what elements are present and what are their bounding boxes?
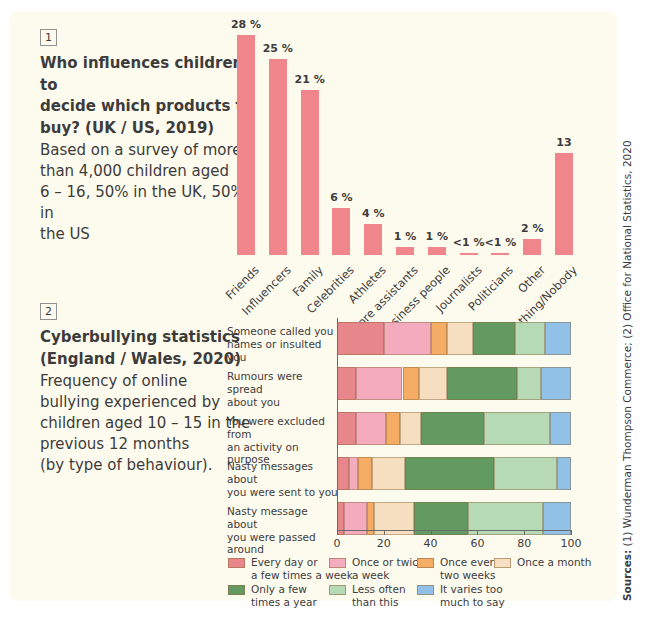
chart2-segment-once-every-two-weeks: [431, 322, 447, 355]
source-note: Sources: (1) Wunderman Thompson Commerce…: [621, 140, 633, 601]
chart2-segment-only-a-few-times-a-year: [473, 322, 515, 355]
chart2-segment-once-or-twice-a-week: [349, 457, 358, 490]
chart2-x-tick-label: 80: [509, 537, 539, 550]
chart2-segment-less-often-than-this: [484, 412, 550, 445]
legend-label: Once every two weeks: [440, 556, 500, 581]
chart2-x-tick: [571, 530, 572, 535]
chart2-segment-less-often-than-this: [515, 322, 545, 355]
legend-swatch-only-a-few-times-a-year: [228, 585, 245, 595]
chart2-row-label: Nasty messages about you were sent to yo…: [227, 460, 339, 498]
chart1-index-badge: 1: [40, 29, 57, 46]
chart2-segment-only-a-few-times-a-year: [447, 367, 517, 400]
chart2-segment-once-or-twice-a-week: [356, 412, 386, 445]
chart2-segment-it-varies-too-much-to-say: [541, 367, 571, 400]
chart2-x-tick: [477, 530, 478, 535]
chart2-x-tick: [384, 530, 385, 535]
chart2-segment-every-day-or-a-few-times-a-week: [337, 457, 349, 490]
chart2-segment-it-varies-too-much-to-say: [545, 322, 571, 355]
legend-swatch-less-often-than-this: [329, 585, 346, 595]
chart1-value-label: 21 %: [280, 73, 340, 86]
chart2-segment-once-every-two-weeks: [358, 457, 372, 490]
chart2-segment-once-or-twice-a-week: [356, 367, 403, 400]
chart2-x-tick-label: 0: [322, 537, 352, 550]
chart1-value-label: 6 %: [311, 191, 371, 204]
chart2-segment-once-every-two-weeks: [403, 367, 419, 400]
chart2-y-axis-line: [337, 318, 338, 530]
source-note-text: (1) Wunderman Thompson Commerce; (2) Off…: [621, 140, 633, 546]
chart2-index-badge: 2: [40, 303, 57, 320]
chart2-segment-it-varies-too-much-to-say: [550, 412, 571, 445]
chart2-segment-once-a-month: [400, 412, 421, 445]
chart1-text-block: 1 Who influences children to decide whic…: [40, 26, 255, 245]
chart2-segment-less-often-than-this: [494, 457, 557, 490]
chart1-value-label: 4 %: [343, 207, 403, 220]
chart2-segment-it-varies-too-much-to-say: [557, 457, 571, 490]
chart2-segment-every-day-or-a-few-times-a-week: [337, 322, 384, 355]
legend-label: It varies too much to say: [440, 583, 505, 608]
chart1-bar-store-assistants: [396, 247, 414, 255]
chart2-x-tick-label: 100: [556, 537, 586, 550]
chart2-segment-only-a-few-times-a-year: [405, 457, 494, 490]
chart2-row-label: Rumours were spread about you: [227, 370, 339, 408]
chart2-x-tick-label: 40: [416, 537, 446, 550]
chart1-value-label: 25 %: [248, 42, 308, 55]
legend-label: Less often than this: [352, 583, 406, 608]
chart1-bar-other: [523, 239, 541, 255]
chart2-segment-once-a-month: [372, 457, 405, 490]
chart2-x-tick: [524, 530, 525, 535]
chart1-value-label: 28 %: [216, 18, 276, 31]
chart1-value-label: 2 %: [502, 222, 562, 235]
legend-swatch-once-a-month: [494, 558, 511, 568]
chart1-bar-nothing-nobody: [555, 153, 573, 255]
chart2-title: Cyberbullying statistics (England / Wale…: [40, 327, 255, 370]
chart1-value-label: 13: [534, 136, 594, 149]
legend-swatch-it-varies-too-much-to-say: [417, 585, 434, 595]
chart2-segment-only-a-few-times-a-year: [421, 412, 484, 445]
chart2-text-block: 2 Cyberbullying statistics (England / Wa…: [40, 300, 255, 476]
chart2-segment-every-day-or-a-few-times-a-week: [337, 367, 356, 400]
chart1-subtitle: Based on a survey of more than 4,000 chi…: [40, 140, 255, 245]
chart2-segment-once-every-two-weeks: [386, 412, 400, 445]
chart1-value-label: <1 %: [470, 236, 530, 249]
chart2-row-label: You were excluded from an activity on pu…: [227, 415, 339, 466]
legend-swatch-once-or-twice-a-week: [329, 558, 346, 568]
chart2-segment-every-day-or-a-few-times-a-week: [337, 412, 356, 445]
legend-label: Once a month: [517, 556, 591, 569]
chart2-subtitle: Frequency of online bullying experienced…: [40, 371, 255, 476]
chart2-segment-less-often-than-this: [517, 367, 540, 400]
source-note-label: Sources:: [621, 550, 633, 601]
chart1-bar-influencers: [269, 59, 287, 255]
chart1-title: Who influences children to decide which …: [40, 53, 255, 139]
chart2-x-tick-label: 60: [462, 537, 492, 550]
chart1-bar-journalists: [460, 253, 478, 255]
legend-swatch-every-day-or-a-few-times-a-week: [228, 558, 245, 568]
chart1-bar-politicians: [491, 253, 509, 255]
chart1-bar-friends: [237, 35, 255, 255]
chart2-segment-once-or-twice-a-week: [384, 322, 431, 355]
legend-label: Once or twice a week: [352, 556, 424, 581]
chart1-bar-family: [301, 90, 319, 255]
chart2-x-tick: [431, 530, 432, 535]
legend-label: Only a few times a year: [251, 583, 317, 608]
chart2-row-label: Someone called you names or insulted you: [227, 325, 339, 363]
chart2-x-axis-line: [337, 530, 572, 531]
chart2-x-tick-label: 20: [369, 537, 399, 550]
chart2-segment-once-a-month: [419, 367, 447, 400]
legend-swatch-once-every-two-weeks: [417, 558, 434, 568]
chart2-segment-once-a-month: [447, 322, 473, 355]
chart2-x-tick: [337, 530, 338, 535]
